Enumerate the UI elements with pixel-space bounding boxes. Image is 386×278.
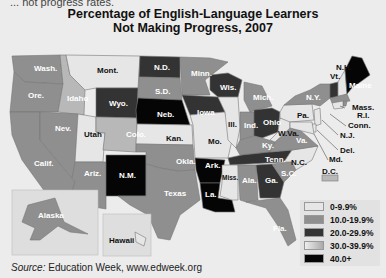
svg-text:Neb.: Neb. <box>157 110 174 119</box>
legend-swatch <box>304 241 324 250</box>
svg-text:Kan.: Kan. <box>166 134 183 143</box>
legend-swatch <box>304 202 324 211</box>
svg-text:N.J.: N.J. <box>340 131 355 140</box>
legend: 0-9.9% 10.0-19.9% 20.0-29.9% 30.0-39.9% … <box>300 200 380 266</box>
legend-item: 30.0-39.9% <box>300 239 380 252</box>
svg-text:S.C.: S.C. <box>281 169 297 178</box>
svg-text:Nev.: Nev. <box>55 124 71 133</box>
svg-text:Ariz.: Ariz. <box>84 169 101 178</box>
legend-label: 40.0+ <box>330 254 352 264</box>
svg-text:Wash.: Wash. <box>34 64 57 73</box>
svg-text:Miss.: Miss. <box>222 174 238 181</box>
svg-text:Colo.: Colo. <box>126 130 146 139</box>
svg-text:D.C.: D.C. <box>322 167 338 176</box>
legend-label: 10.0-19.9% <box>330 215 373 225</box>
svg-text:Okla.: Okla. <box>176 157 196 166</box>
legend-label: 30.0-39.9% <box>330 241 373 251</box>
state-fla <box>246 198 296 246</box>
svg-text:W.Va.: W.Va. <box>278 129 299 138</box>
svg-text:Ala.: Ala. <box>242 176 257 185</box>
svg-text:Minn.: Minn. <box>191 69 212 78</box>
svg-text:Fla.: Fla. <box>273 224 287 233</box>
svg-text:Hawaii: Hawaii <box>109 236 134 245</box>
svg-text:La.: La. <box>205 190 217 199</box>
source-caption: Source: Education Week, www.edweek.org <box>11 262 202 273</box>
state-miss <box>220 165 238 200</box>
svg-text:Conn.: Conn. <box>348 121 371 130</box>
source-text: Education Week, www.edweek.org <box>45 262 202 273</box>
svg-text:Ohio: Ohio <box>263 118 281 127</box>
svg-text:Idaho: Idaho <box>67 94 88 103</box>
svg-text:Tenn.: Tenn. <box>265 155 286 164</box>
svg-text:Del.: Del. <box>340 146 355 155</box>
svg-text:Ga.: Ga. <box>265 176 278 185</box>
svg-text:Pa.: Pa. <box>297 111 309 120</box>
svg-text:Mo.: Mo. <box>208 137 222 146</box>
svg-text:Ky.: Ky. <box>262 141 274 150</box>
svg-text:Ark.: Ark. <box>205 161 221 170</box>
legend-item: 40.0+ <box>300 252 380 265</box>
source-label: Source: <box>11 262 45 273</box>
svg-text:Iowa: Iowa <box>197 108 215 117</box>
svg-text:S.D.: S.D. <box>155 87 171 96</box>
svg-text:N.D.: N.D. <box>154 63 170 72</box>
svg-text:Md.: Md. <box>329 155 343 164</box>
svg-text:Wyo.: Wyo. <box>109 99 128 108</box>
svg-text:N.Y.: N.Y. <box>306 93 321 102</box>
hawaii-inset <box>103 214 151 256</box>
svg-text:Mont.: Mont. <box>97 66 118 75</box>
legend-swatch <box>304 228 324 237</box>
legend-item: 0-9.9% <box>300 200 380 213</box>
svg-text:Texas: Texas <box>164 189 187 198</box>
svg-text:Alaska: Alaska <box>38 211 64 220</box>
svg-text:Ind.: Ind. <box>244 121 258 130</box>
svg-text:N.C.: N.C. <box>291 158 307 167</box>
svg-text:Ore.: Ore. <box>28 91 44 100</box>
legend-item: 20.0-29.9% <box>300 226 380 239</box>
state-ri <box>343 101 347 106</box>
state-nj <box>314 108 321 126</box>
legend-label: 20.0-29.9% <box>330 228 373 238</box>
legend-item: 10.0-19.9% <box>300 213 380 226</box>
svg-text:Wis.: Wis. <box>220 83 236 92</box>
svg-text:R.I.: R.I. <box>357 111 369 120</box>
svg-text:Vt.: Vt. <box>330 72 340 81</box>
legend-label: 0-9.9% <box>330 202 357 212</box>
svg-text:Utah: Utah <box>84 130 102 139</box>
svg-text:Maine: Maine <box>349 81 372 90</box>
svg-text:N.H.: N.H. <box>336 63 352 72</box>
svg-text:Ill.: Ill. <box>228 120 237 129</box>
state-vt <box>330 82 338 98</box>
svg-text:Calif.: Calif. <box>34 159 54 168</box>
svg-text:N.M.: N.M. <box>119 171 136 180</box>
legend-swatch <box>304 254 324 263</box>
legend-swatch <box>304 215 324 224</box>
svg-text:Mich.: Mich. <box>253 93 273 102</box>
